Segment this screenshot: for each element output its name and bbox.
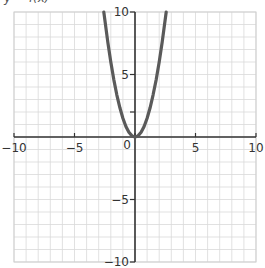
- x-tick-label: 10: [248, 141, 263, 155]
- x-tick-label: 5: [192, 141, 200, 155]
- y-tick-label: −10: [104, 255, 129, 268]
- y-tick-label: 5: [121, 68, 129, 82]
- y-tick-label: −5: [111, 193, 129, 207]
- y-tick-label: 10: [114, 5, 129, 19]
- chart: −10−50510−10−5510: [0, 0, 265, 268]
- x-tick-label: −10: [1, 141, 26, 155]
- x-tick-label: 0: [123, 138, 131, 152]
- x-tick-label: −5: [66, 141, 84, 155]
